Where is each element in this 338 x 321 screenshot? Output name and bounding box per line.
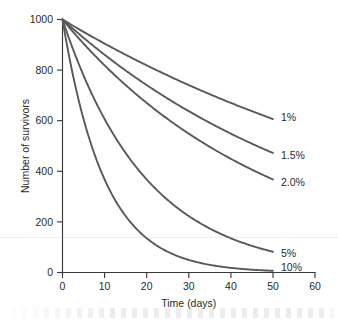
y-tick-label-600: 600	[35, 114, 53, 126]
x-tick-label-50: 50	[267, 280, 279, 292]
y-tick-label-200: 200	[35, 216, 53, 228]
series-label-10-percent: 10%	[281, 261, 302, 273]
x-tick-label-40: 40	[225, 280, 237, 292]
y-tick-label-1000: 1000	[30, 13, 54, 25]
x-tick-label-30: 30	[183, 280, 195, 292]
x-tick-label-0: 0	[60, 280, 66, 292]
y-tick-label-800: 800	[35, 64, 53, 76]
series-label-5-percent: 5%	[281, 247, 296, 259]
x-axis-title: Time (days)	[161, 297, 216, 309]
y-axis-title: Number of survivors	[19, 99, 31, 193]
x-tick-label-60: 60	[309, 280, 321, 292]
survival-curve-chart: 0 200 400 600 800 1000 0 10 20 30 40 50 …	[0, 0, 338, 321]
y-tick-label-0: 0	[47, 266, 53, 278]
series-label-2-0-percent: 2.0%	[281, 176, 305, 188]
curve-10-percent	[63, 20, 273, 271]
series-label-1-5-percent: 1.5%	[281, 149, 305, 161]
curve-group	[63, 20, 273, 271]
curve-1-5-percent	[63, 20, 273, 153]
x-tick-label-20: 20	[141, 280, 153, 292]
x-tick-label-10: 10	[99, 280, 111, 292]
chart-figure: 0 200 400 600 800 1000 0 10 20 30 40 50 …	[0, 0, 338, 321]
curve-1-percent	[63, 20, 273, 120]
y-tick-label-400: 400	[35, 165, 53, 177]
series-label-1-percent: 1%	[281, 111, 296, 123]
